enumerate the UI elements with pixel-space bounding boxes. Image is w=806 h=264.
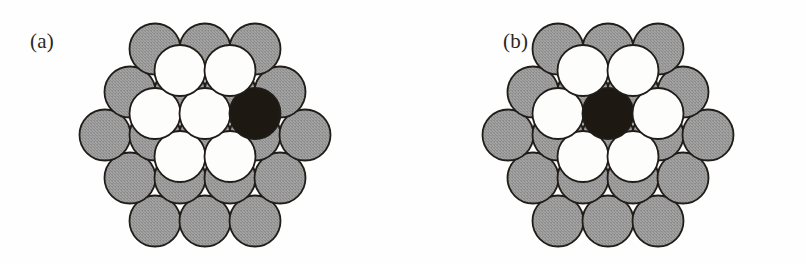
white-adatom bbox=[558, 45, 609, 96]
white-adatom bbox=[205, 45, 256, 96]
panel-a: (a) bbox=[0, 0, 403, 264]
panel-a-cluster-diagram bbox=[0, 0, 403, 264]
panel-b-cluster-diagram bbox=[403, 0, 806, 264]
figure-root: (a) (b) bbox=[0, 0, 806, 264]
white-adatom bbox=[155, 45, 206, 96]
panel-b: (b) bbox=[403, 0, 806, 264]
white-adatom bbox=[608, 45, 659, 96]
